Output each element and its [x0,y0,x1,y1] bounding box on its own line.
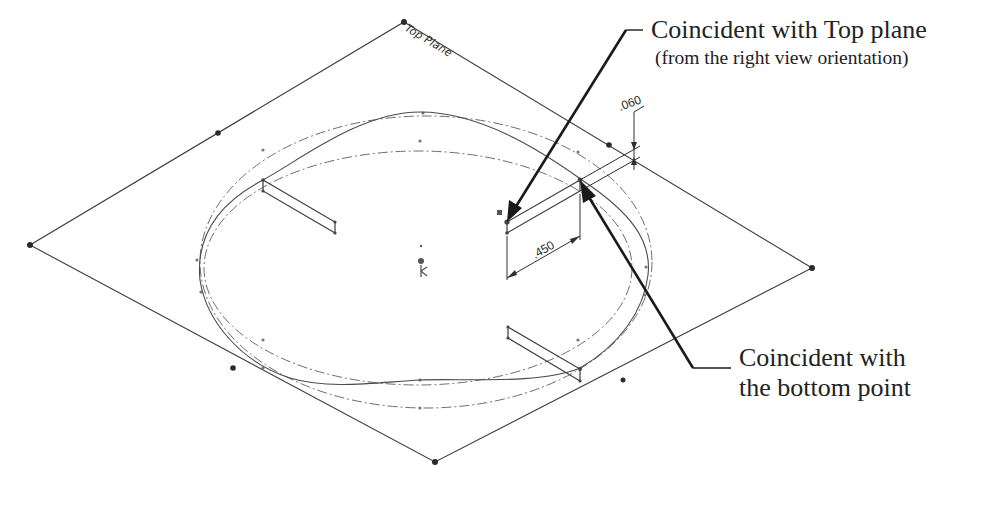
dimension-060-text[interactable]: .060 [616,93,643,114]
callout-bottom-point-line1: Coincident with [739,343,911,373]
sketch-canvas: Top Plane [0,0,1003,514]
plane-midpoint-bottom-right [621,378,626,383]
construction-ellipse-inner [204,151,632,385]
dimension-450-text[interactable]: .450 [530,238,558,262]
coincident-relation-icon [497,210,502,215]
plane-vertex-right [809,265,815,271]
plane-label: Top Plane [402,21,454,59]
plane-midpoint-top-right [606,142,612,148]
origin-icon [418,245,427,277]
callout-top-plane-title: Coincident with Top plane [651,16,927,45]
slot-left [261,178,336,234]
construction-ellipse-outer [200,116,652,408]
slot-right-bottom-edge [507,191,580,233]
dimension-060: .060 [580,93,644,191]
plane-vertex-bottom [432,459,438,465]
callout-bottom-point: Coincident with the bottom point [739,343,911,403]
callout-top-plane-subtitle: (from the right view orientation) [655,47,908,68]
plane-midpoint-bottom-left [230,365,236,371]
leader-top-plane-arrowhead [507,200,522,222]
top-plane-outline [27,19,815,465]
plane-vertex-left [27,242,33,248]
plane-midpoint-top-left [215,130,221,136]
plane-vertex-top [401,19,407,25]
plane-boundary [30,22,812,462]
callout-bottom-point-line2: the bottom point [739,373,911,403]
